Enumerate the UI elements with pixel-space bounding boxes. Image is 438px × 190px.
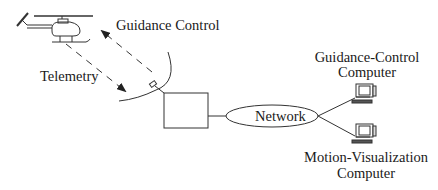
helicopter-icon: [17, 13, 93, 42]
network-label: Network: [255, 109, 306, 124]
system-diagram: Guidance Control Telemetry Network Guida…: [0, 0, 438, 190]
base-station-box: [164, 93, 208, 128]
motion-computer-label-line1: Motion-Visualization: [304, 150, 428, 165]
guidance-control-label: Guidance Control: [116, 18, 220, 33]
motion-computer-icon: [352, 124, 376, 143]
motion-computer-label-line2: Computer: [337, 166, 395, 181]
network-motion-link: [318, 116, 355, 136]
guidance-computer-icon: [352, 84, 376, 103]
network-guidance-link: [318, 98, 355, 116]
guidance-computer-label-line1: Guidance-Control: [315, 50, 420, 65]
telemetry-label: Telemetry: [40, 69, 99, 84]
guidance-computer-label-line2: Computer: [338, 65, 396, 80]
guidance-control-arrow: [102, 31, 152, 72]
satellite-dish-icon: [119, 52, 171, 101]
